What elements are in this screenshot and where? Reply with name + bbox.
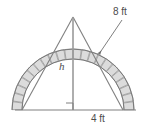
- voussoir-block: [73, 49, 81, 59]
- radius-label: 8 ft: [113, 6, 127, 17]
- chord-apex-to-left-spring: [22, 17, 73, 110]
- voussoir-block: [12, 102, 22, 110]
- right-angle-marker: [66, 103, 73, 110]
- arch-diagram-canvas: 8 ft h 4 ft: [0, 0, 150, 128]
- radius-callout-leader-line: [99, 20, 122, 54]
- base-label: 4 ft: [91, 113, 105, 124]
- chord-apex-to-right-spring: [73, 17, 123, 110]
- voussoir-block: [124, 102, 134, 110]
- height-label: h: [59, 60, 65, 72]
- geometry-figure: 8 ft h 4 ft: [0, 0, 150, 128]
- voussoir-block: [65, 49, 73, 59]
